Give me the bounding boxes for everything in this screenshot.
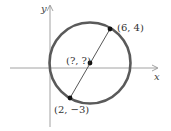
- point-2-neg3: [68, 96, 73, 101]
- label-point-2-neg3: (2, −3): [54, 104, 89, 115]
- label-point-6-4: (6, 4): [117, 22, 144, 33]
- x-axis-label: x: [154, 71, 160, 82]
- circle-diagram: y x (6, 4) (?, ?) (2, −3): [0, 0, 171, 131]
- label-center: (?, ?): [66, 55, 91, 66]
- point-6-4: [108, 27, 113, 32]
- y-axis-label: y: [40, 3, 47, 14]
